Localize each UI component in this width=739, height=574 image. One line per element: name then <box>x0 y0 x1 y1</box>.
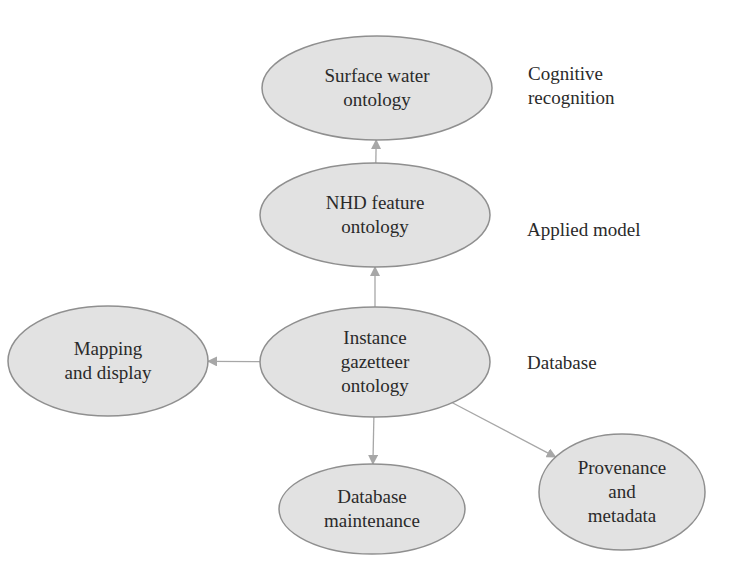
level-label-applied-model: Applied model <box>527 218 640 242</box>
node-label-line: metadata <box>588 505 657 526</box>
node-ellipse <box>279 464 465 554</box>
level-label-line: Applied model <box>527 218 640 242</box>
node-label-line: ontology <box>343 89 411 110</box>
node-nhd: NHD featureontology <box>260 163 490 267</box>
level-label-line: recognition <box>528 86 615 110</box>
node-ellipse <box>262 36 492 140</box>
level-label-database: Database <box>527 351 597 375</box>
node-ellipse <box>260 163 490 267</box>
node-ellipse <box>8 306 208 416</box>
node-label-line: Mapping <box>74 338 143 359</box>
node-surface: Surface waterontology <box>262 36 492 140</box>
node-label-line: and <box>608 481 636 502</box>
nodes-layer: Surface waterontologyNHD featureontology… <box>8 36 705 554</box>
node-provenance: Provenanceandmetadata <box>539 434 705 550</box>
node-label-line: gazetteer <box>341 351 410 372</box>
node-label-line: Instance <box>343 327 406 348</box>
node-label-line: ontology <box>341 216 409 237</box>
node-label-line: Surface water <box>325 65 431 86</box>
node-label-line: Database <box>337 486 407 507</box>
level-label-cognitive-recognition: Cognitive recognition <box>528 62 615 110</box>
node-instance: Instancegazetteerontology <box>260 307 490 417</box>
diagram-canvas: Surface waterontologyNHD featureontology… <box>0 0 739 574</box>
level-label-line: Cognitive <box>528 62 615 86</box>
edge-instance-to-provenance <box>452 403 555 457</box>
edge-instance-to-maintenance <box>373 417 374 464</box>
ontology-diagram: Surface waterontologyNHD featureontology… <box>0 0 739 574</box>
level-label-line: Database <box>527 351 597 375</box>
node-maintenance: Databasemaintenance <box>279 464 465 554</box>
node-mapping: Mappingand display <box>8 306 208 416</box>
node-label-line: maintenance <box>324 510 420 531</box>
node-label-line: Provenance <box>578 457 667 478</box>
node-label-line: ontology <box>341 375 409 396</box>
node-label-line: NHD feature <box>326 192 425 213</box>
node-label-line: and display <box>64 362 152 383</box>
